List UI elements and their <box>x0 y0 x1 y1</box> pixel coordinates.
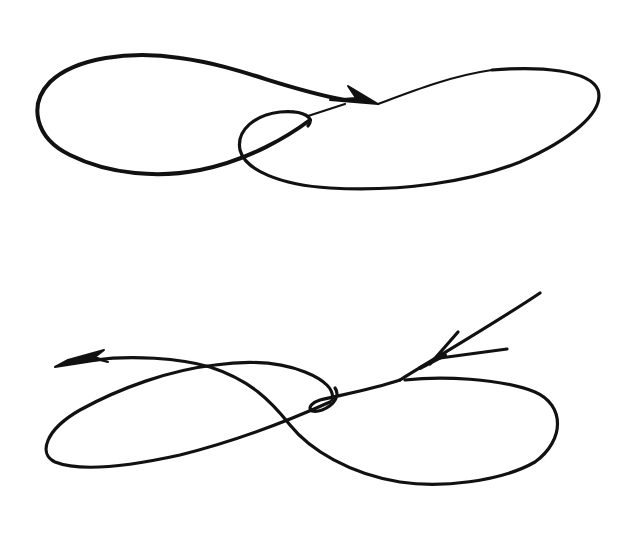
top-left-lobe <box>37 55 345 174</box>
bottom-center-crossing <box>46 362 332 467</box>
diagram-canvas <box>0 0 635 535</box>
top-arrowhead-icon <box>330 86 378 104</box>
top-right-lobe <box>378 70 492 104</box>
bottom-arrow-joint <box>420 355 445 368</box>
bottom-figure-eight-diagram <box>46 293 557 484</box>
bottom-small-loop <box>310 380 400 411</box>
top-inner-connector <box>308 104 345 116</box>
bottom-arrowhead-icon <box>55 350 108 367</box>
top-loop-diagram <box>37 55 598 189</box>
